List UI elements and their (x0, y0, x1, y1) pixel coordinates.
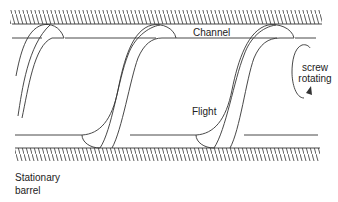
stationary-barrel-line2: barrel (15, 184, 60, 197)
screw-rotating-label: screw rotating (295, 62, 335, 84)
flight-1 (16, 24, 64, 118)
channel-label: Channel (193, 27, 230, 38)
bottom-barrel-wall (15, 148, 320, 161)
flight-3 (196, 25, 294, 148)
screw-rotating-line1: screw (295, 62, 335, 73)
flight-2 (82, 25, 176, 148)
stationary-barrel-line1: Stationary (15, 171, 60, 184)
flight-label: Flight (192, 106, 216, 117)
screw-rotating-line2: rotating (295, 73, 335, 84)
screw-root (12, 38, 318, 135)
top-barrel-wall (10, 10, 322, 24)
stationary-barrel-label: Stationary barrel (15, 171, 60, 197)
